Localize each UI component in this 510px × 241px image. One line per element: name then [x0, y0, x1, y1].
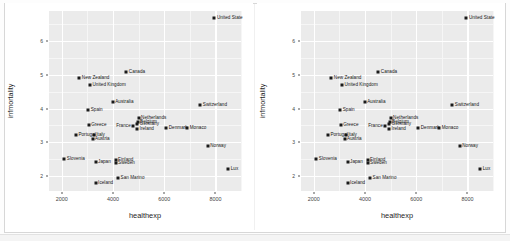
- scatter-point[interactable]: [384, 125, 387, 128]
- scatter-point[interactable]: [94, 182, 97, 185]
- scatter-point[interactable]: [136, 127, 139, 130]
- scatter-point-label: United State: [469, 15, 495, 20]
- scatter-point-label: Ireland: [392, 126, 406, 131]
- scatter-point[interactable]: [343, 137, 346, 140]
- gridline-minor-vertical: [391, 11, 392, 191]
- scatter-point[interactable]: [87, 109, 90, 112]
- y-tick-mark: [298, 108, 300, 109]
- scatter-point[interactable]: [186, 127, 189, 130]
- scatter-point[interactable]: [326, 134, 329, 137]
- scatter-point[interactable]: [417, 127, 420, 130]
- scatter-point[interactable]: [479, 168, 482, 171]
- gridline-major-horizontal: [49, 41, 241, 42]
- x-tick-label: 8000: [452, 196, 482, 202]
- scatter-point[interactable]: [340, 84, 343, 87]
- scatter-point[interactable]: [451, 104, 454, 107]
- scatter-point[interactable]: [458, 145, 461, 148]
- scatter-point-label: San Marino: [373, 176, 397, 181]
- scatter-point-label: Austria: [95, 137, 110, 142]
- scatter-point-label: Japan: [350, 159, 363, 164]
- y-tick-label: 3: [275, 139, 295, 145]
- y-tick-mark: [46, 175, 48, 176]
- x-tick-mark: [416, 192, 417, 194]
- x-tick-label: 4000: [350, 196, 380, 202]
- scatter-point[interactable]: [363, 100, 366, 103]
- scatter-point[interactable]: [63, 158, 66, 161]
- gridline-minor-horizontal: [301, 24, 493, 25]
- y-axis-title-right: infmortality: [258, 61, 267, 141]
- gridline-major-horizontal: [301, 109, 493, 110]
- scatter-point-label: Ireland: [140, 126, 154, 131]
- scatter-point[interactable]: [94, 160, 97, 163]
- scatter-point[interactable]: [91, 137, 94, 140]
- scatter-point[interactable]: [111, 100, 114, 103]
- scatter-point-label: United Kingdom: [344, 83, 377, 88]
- y-tick-mark: [298, 175, 300, 176]
- y-tick-mark: [46, 108, 48, 109]
- scatter-point-label: Slovenia: [319, 157, 337, 162]
- scatter-point[interactable]: [74, 134, 77, 137]
- scatter-point[interactable]: [438, 127, 441, 130]
- x-tick-label: 6000: [149, 196, 179, 202]
- gridline-major-horizontal: [49, 176, 241, 177]
- scatter-point[interactable]: [366, 158, 369, 161]
- scatter-point[interactable]: [346, 160, 349, 163]
- scatter-point[interactable]: [78, 77, 81, 80]
- scatter-point[interactable]: [315, 158, 318, 161]
- scatter-point-label: Australia: [115, 100, 133, 105]
- x-tick-label: 2000: [299, 196, 329, 202]
- scatter-point[interactable]: [213, 16, 216, 19]
- scatter-point-label: Canada: [381, 69, 397, 74]
- scatter-point-label: Austria: [347, 137, 362, 142]
- y-axis-title-left: infmortality: [6, 61, 15, 141]
- scatter-point[interactable]: [330, 77, 333, 80]
- scatter-point[interactable]: [136, 123, 139, 126]
- scatter-point[interactable]: [165, 127, 168, 130]
- scatter-point-label: Australia: [367, 100, 385, 105]
- scatter-point[interactable]: [199, 104, 202, 107]
- x-axis-title-left: healthexp: [49, 211, 241, 220]
- scatter-point[interactable]: [366, 162, 369, 165]
- scatter-point-label: Greece: [91, 123, 106, 128]
- gridline-minor-vertical: [339, 11, 340, 191]
- gridline-major-vertical: [314, 11, 315, 191]
- x-tick-label: 4000: [98, 196, 128, 202]
- x-tick-mark: [467, 192, 468, 194]
- scatter-point[interactable]: [388, 127, 391, 130]
- scatter-point[interactable]: [339, 124, 342, 127]
- figure-bottom-strip: [0, 234, 510, 241]
- scatter-point[interactable]: [465, 16, 468, 19]
- gridline-minor-vertical: [241, 11, 242, 191]
- scatter-point-label: Sweden: [370, 161, 387, 166]
- scatter-point[interactable]: [114, 158, 117, 161]
- y-tick-label: 2: [275, 173, 295, 179]
- scatter-point[interactable]: [125, 70, 128, 73]
- scatter-point[interactable]: [388, 123, 391, 126]
- x-tick-mark: [61, 192, 62, 194]
- x-tick-mark: [215, 192, 216, 194]
- scatter-point[interactable]: [132, 125, 135, 128]
- scatter-point[interactable]: [206, 145, 209, 148]
- scatter-point[interactable]: [377, 70, 380, 73]
- x-tick-mark: [164, 192, 165, 194]
- scatter-point[interactable]: [88, 84, 91, 87]
- gridline-minor-horizontal: [301, 92, 493, 93]
- figure-root: United StateCanadaNew ZealandUnited King…: [0, 0, 510, 241]
- x-axis-title-right: healthexp: [301, 211, 493, 220]
- gridline-minor-vertical: [87, 11, 88, 191]
- x-tick-mark: [113, 192, 114, 194]
- scatter-point[interactable]: [87, 124, 90, 127]
- gridline-minor-vertical: [190, 11, 191, 191]
- scatter-point[interactable]: [114, 162, 117, 165]
- scatter-point[interactable]: [227, 168, 230, 171]
- gridline-major-vertical: [164, 11, 165, 191]
- scatter-point-label: United State: [217, 15, 243, 20]
- scatter-point[interactable]: [117, 176, 120, 179]
- y-tick-label: 6: [275, 38, 295, 44]
- y-tick-mark: [46, 41, 48, 42]
- scatter-point[interactable]: [339, 109, 342, 112]
- scatter-point[interactable]: [346, 182, 349, 185]
- scatter-point[interactable]: [369, 176, 372, 179]
- scatter-point-label: New Zealand: [82, 76, 110, 81]
- scatter-point-label: France: [368, 124, 383, 129]
